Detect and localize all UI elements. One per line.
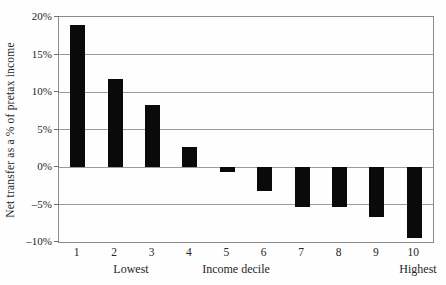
y-tick-label-6: –10% — [8, 235, 52, 247]
x-tick-label-10: 10 — [398, 246, 428, 258]
bar-decile-8 — [332, 167, 347, 207]
bar-decile-10 — [407, 167, 422, 238]
x-tick-label-2: 2 — [99, 246, 129, 258]
y-tick-label-3: 5% — [8, 123, 52, 135]
bar-decile-6 — [257, 167, 272, 191]
x-tick-label-4: 4 — [174, 246, 204, 258]
y-tick-mark-0 — [54, 16, 59, 17]
bar-decile-3 — [145, 105, 160, 167]
y-tick-label-1: 15% — [8, 48, 52, 60]
x-tick-label-3: 3 — [137, 246, 167, 258]
y-tick-mark-3 — [54, 129, 59, 130]
gridline-15 — [59, 54, 433, 55]
x-tick-label-1: 1 — [62, 246, 92, 258]
bar-decile-7 — [295, 167, 310, 207]
y-tick-mark-6 — [54, 241, 59, 242]
bar-decile-2 — [108, 79, 123, 168]
bar-decile-5 — [220, 167, 235, 172]
y-tick-label-0: 20% — [8, 10, 52, 22]
y-tick-mark-5 — [54, 204, 59, 205]
bar-chart-figure: Net transfer as a % of pretax income Low… — [0, 0, 446, 285]
x-tick-label-7: 7 — [286, 246, 316, 258]
bar-decile-9 — [369, 167, 384, 217]
bar-decile-1 — [70, 25, 85, 168]
x-tick-label-6: 6 — [249, 246, 279, 258]
x-sub-label-lowest: Lowest — [113, 262, 148, 277]
x-sub-label-highest: Highest — [399, 262, 436, 277]
x-tick-label-8: 8 — [324, 246, 354, 258]
x-axis-title: Income decile — [202, 262, 270, 277]
y-tick-label-2: 10% — [8, 85, 52, 97]
y-tick-mark-2 — [54, 91, 59, 92]
plot-area — [58, 16, 434, 243]
x-tick-label-9: 9 — [361, 246, 391, 258]
y-tick-mark-4 — [54, 166, 59, 167]
y-tick-mark-1 — [54, 54, 59, 55]
y-tick-label-4: 0% — [8, 160, 52, 172]
x-tick-label-5: 5 — [211, 246, 241, 258]
y-tick-label-5: –5% — [8, 198, 52, 210]
bar-decile-4 — [182, 147, 197, 167]
